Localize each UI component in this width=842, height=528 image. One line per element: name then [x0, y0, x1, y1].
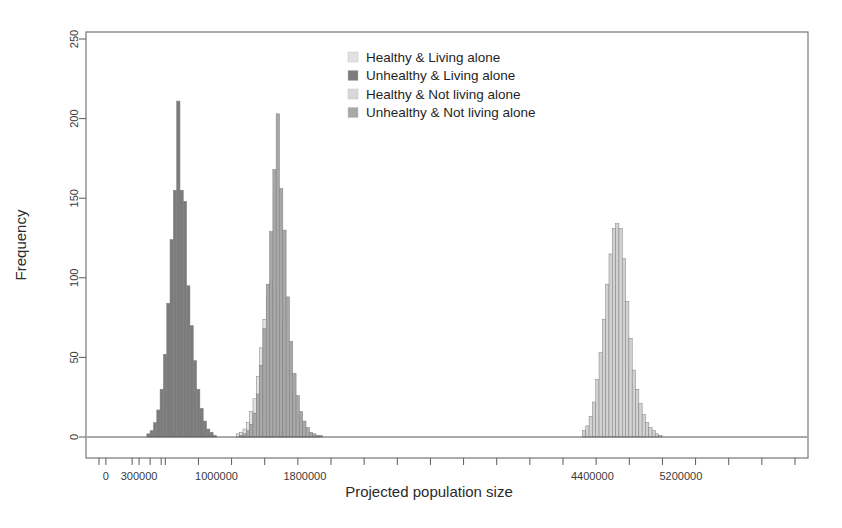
histogram-bar — [602, 319, 605, 437]
series-bars — [240, 114, 323, 437]
histogram-bar — [253, 413, 256, 437]
legend-swatch — [348, 52, 358, 62]
y-axis-tick-label: 50 — [68, 351, 80, 363]
histogram-bar — [592, 402, 595, 437]
bars-layer — [147, 101, 662, 437]
x-axis-tick-label: 0 — [103, 470, 109, 482]
chart-legend: Healthy & Living aloneUnhealthy & Living… — [348, 50, 536, 121]
histogram-bar — [163, 354, 166, 437]
histogram-bar — [632, 370, 635, 437]
histogram-bar — [293, 373, 296, 437]
histogram-bar — [619, 228, 622, 437]
legend-swatch — [348, 71, 358, 81]
histogram-bar — [183, 201, 186, 437]
y-axis-tick-label: 100 — [68, 269, 80, 287]
histogram-bar — [153, 423, 156, 437]
histogram-bar — [207, 429, 210, 437]
histogram-bar — [187, 286, 190, 437]
histogram-bar — [200, 408, 203, 437]
x-axis-tick-label: 5200000 — [659, 470, 702, 482]
histogram-bar — [180, 190, 183, 437]
histogram-bar — [306, 427, 309, 437]
histogram-bar — [177, 101, 180, 437]
histogram-bar — [596, 380, 599, 437]
histogram-bar — [193, 361, 196, 437]
histogram-bar — [286, 297, 289, 437]
series-bars — [582, 224, 662, 437]
histogram-bar — [197, 389, 200, 437]
histogram-bar — [150, 431, 153, 437]
histogram-figure: 050100150200250Frequency0300000100000018… — [0, 0, 842, 528]
legend-item: Unhealthy & Not living alone — [348, 105, 536, 120]
histogram-bar — [622, 259, 625, 437]
x-axis-tick-label: 300000 — [121, 470, 158, 482]
histogram-bar — [160, 389, 163, 437]
histogram-bar — [642, 415, 645, 437]
y-axis-tick-label: 0 — [68, 434, 80, 440]
x-axis-tick-label: 1000000 — [195, 470, 238, 482]
legend-item: Healthy & Living alone — [348, 50, 500, 65]
histogram-bar — [626, 302, 629, 437]
legend-label: Healthy & Not living alone — [366, 87, 521, 102]
histogram-bar — [270, 232, 273, 437]
y-axis-tick-label: 200 — [68, 109, 80, 127]
legend-swatch — [348, 108, 358, 118]
x-axis-tick-label: 4400000 — [571, 470, 614, 482]
legend-item: Unhealthy & Living alone — [348, 68, 515, 83]
histogram-bar — [299, 412, 302, 437]
y-axis-tick-label: 150 — [68, 189, 80, 207]
histogram-bar — [167, 303, 170, 437]
histogram-bar — [636, 389, 639, 437]
y-axis-tick-label: 250 — [68, 30, 80, 48]
x-axis-title: Projected population size — [345, 483, 513, 500]
histogram-bar — [279, 189, 282, 437]
histogram-bar — [616, 224, 619, 437]
histogram-bar — [652, 431, 655, 437]
histogram-bar — [276, 114, 279, 437]
series-bars — [147, 101, 217, 437]
histogram-bar — [250, 424, 253, 437]
histogram-bar — [173, 190, 176, 437]
histogram-bar — [266, 284, 269, 437]
histogram-bar — [612, 228, 615, 437]
histogram-bar — [289, 341, 292, 437]
histogram-bar — [606, 284, 609, 437]
legend-swatch — [348, 89, 358, 99]
histogram-bar — [309, 432, 312, 437]
histogram-bar — [586, 426, 589, 437]
histogram-bar — [260, 365, 263, 437]
histogram-bar — [303, 421, 306, 437]
histogram-bar — [649, 427, 652, 437]
histogram-bar — [157, 410, 160, 437]
histogram-bar — [645, 423, 648, 437]
histogram-bar — [599, 353, 602, 437]
histogram-bar — [283, 230, 286, 437]
histogram-bar — [589, 416, 592, 437]
chart-canvas: 050100150200250Frequency0300000100000018… — [0, 0, 842, 528]
histogram-bar — [629, 338, 632, 437]
histogram-bar — [273, 170, 276, 437]
y-axis-title: Frequency — [12, 209, 29, 280]
histogram-bar — [582, 431, 585, 437]
histogram-bar — [246, 431, 249, 437]
x-axis-tick-label: 1800000 — [284, 470, 327, 482]
histogram-bar — [190, 326, 193, 437]
histogram-bar — [203, 421, 206, 437]
histogram-bar — [256, 394, 259, 437]
histogram-bar — [639, 404, 642, 437]
legend-label: Unhealthy & Living alone — [366, 68, 515, 83]
histogram-bar — [263, 329, 266, 437]
histogram-bar — [210, 432, 213, 437]
legend-item: Healthy & Not living alone — [348, 87, 521, 102]
legend-label: Unhealthy & Not living alone — [366, 105, 536, 120]
histogram-bar — [170, 240, 173, 437]
legend-label: Healthy & Living alone — [366, 50, 500, 65]
histogram-bar — [296, 396, 299, 437]
histogram-bar — [609, 254, 612, 437]
